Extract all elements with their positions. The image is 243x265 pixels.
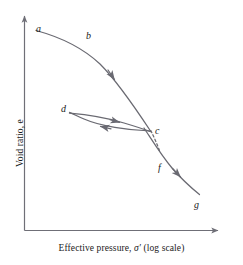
consolidation-curve-figure: a b c d f g Effective pressure, σ′ (log … [0,0,243,265]
point-label-g: g [194,200,199,210]
x-axis-label: Effective pressure, σ′ (log scale) [0,243,243,253]
axes-group [25,16,219,231]
y-axis-label: Void ratio, e [15,93,25,193]
point-label-c: c [155,126,159,136]
x-axis-label-suffix: (log scale) [141,243,184,253]
x-axis-label-prefix: Effective pressure, [59,243,134,253]
arrow-virgin-branch [173,169,181,178]
figure-canvas [0,0,243,265]
point-label-b: b [86,31,91,41]
point-label-d: d [61,104,66,114]
point-label-a: a [36,24,41,34]
point-label-f: f [158,163,161,173]
curve-direction-arrows [101,70,181,177]
virgin-curve-c-to-g [144,128,200,195]
